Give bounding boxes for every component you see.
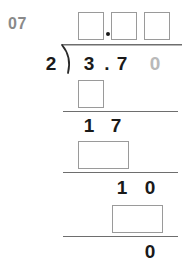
third-product-box[interactable] xyxy=(112,205,163,233)
problem-number-label: 07 xyxy=(8,16,27,32)
first-remainder-digit-2: 7 xyxy=(105,116,127,135)
quotient-decimal-point-icon xyxy=(106,32,110,36)
final-remainder-digit: 0 xyxy=(139,242,161,261)
quotient-tenths-box[interactable] xyxy=(111,12,137,40)
long-division-worksheet: 07 2 3 . 7 0 1 7 1 0 0 xyxy=(0,0,182,268)
second-product-box[interactable] xyxy=(78,141,129,169)
divisor-digit: 2 xyxy=(40,54,62,73)
dividend-digit-ones: 3 xyxy=(78,54,100,73)
first-product-box[interactable] xyxy=(78,80,104,108)
dividend-digit-tenths: 7 xyxy=(111,54,133,73)
quotient-hundredths-box[interactable] xyxy=(144,12,170,40)
subtraction-rule-3 xyxy=(63,236,178,237)
second-remainder-digit-1: 1 xyxy=(111,178,133,197)
first-remainder-digit-1: 1 xyxy=(78,116,100,135)
quotient-ones-box[interactable] xyxy=(78,12,104,40)
dividend-appended-zero: 0 xyxy=(144,54,166,73)
second-remainder-digit-2: 0 xyxy=(139,178,161,197)
subtraction-rule-2 xyxy=(63,172,178,173)
subtraction-rule-1 xyxy=(63,111,178,112)
